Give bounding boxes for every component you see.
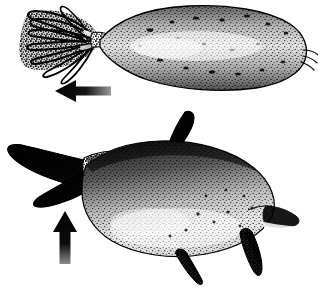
figure-svg <box>0 0 318 287</box>
illustration-canvas: Squid and dolphin locomotion comparison … <box>0 0 318 287</box>
